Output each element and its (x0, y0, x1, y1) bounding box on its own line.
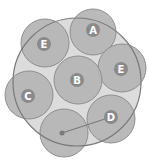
circle-label: C (24, 91, 31, 102)
circle-b: B (54, 56, 102, 104)
circle-label: A (89, 25, 97, 36)
circle-label-d: D (107, 112, 115, 123)
circle-label: E (118, 64, 125, 75)
circle-label: B (73, 75, 81, 86)
circle-packing-diagram: E A E B C (0, 0, 149, 165)
circle-e-right: E (98, 44, 146, 92)
connector-dot-icon (60, 131, 65, 136)
diagram-stage: E A E B C (0, 0, 149, 165)
circle-c: C (5, 71, 53, 119)
circle-label: E (41, 39, 48, 50)
